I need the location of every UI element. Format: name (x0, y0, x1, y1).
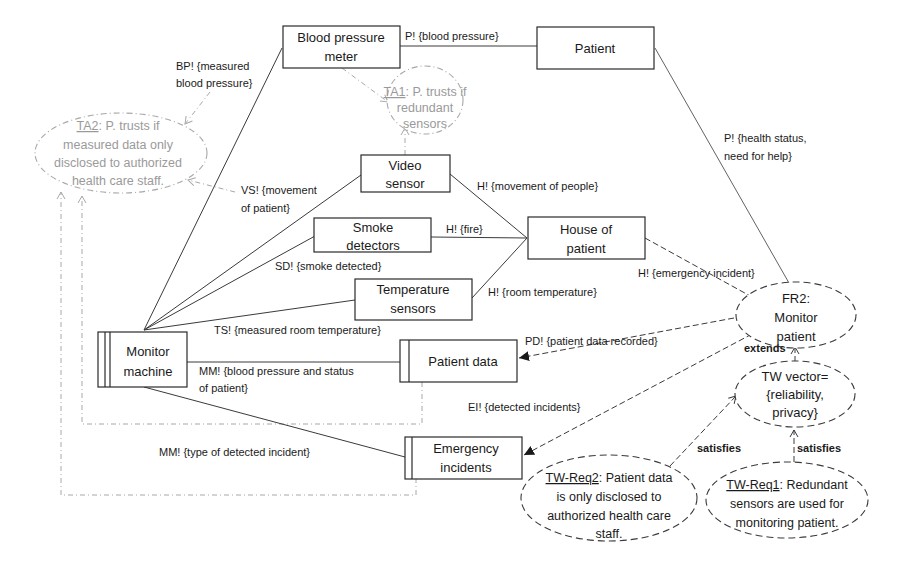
satisfies-label: satisfies (797, 442, 841, 454)
designed-domain-emergency-incidents[interactable]: Emergency incidents (405, 437, 522, 479)
extends-label: extends (744, 342, 786, 354)
req-label: Monitor (774, 310, 818, 325)
interface-label: H! {fire} (446, 223, 483, 235)
interface-label: MM! {type of detected incident} (159, 446, 310, 458)
interface-label: H! {movement of people} (477, 180, 598, 192)
req-label: TW-Req1: Redundant (726, 478, 848, 492)
req-label: monitoring patient. (736, 516, 839, 530)
interface-label: of patient} (199, 382, 248, 394)
req-label: is only disclosed to (557, 490, 662, 504)
interface-label: PD! {patient data recorded} (525, 335, 658, 347)
domain-label: Emergency (433, 441, 499, 456)
interface-label: of patient} (241, 202, 290, 214)
domain-label: Smoke (353, 220, 393, 235)
interface-label: blood pressure} (176, 77, 253, 89)
interface-label: need for help} (724, 150, 792, 162)
interface-lines (144, 46, 793, 457)
req-label: {reliability, (766, 387, 824, 402)
problem-diagram: Blood pressure meter Patient Video senso… (0, 0, 900, 570)
edge-patient-fr2 (655, 48, 793, 290)
domain-label: incidents (440, 460, 492, 475)
interface-label: VS! {movement (241, 184, 317, 196)
relation-satisfies-req2 (670, 396, 736, 466)
domain-patient[interactable]: Patient (537, 27, 654, 69)
domain-label: meter (324, 49, 358, 64)
domain-label: detectors (346, 238, 400, 253)
domain-label: Blood pressure (297, 30, 384, 45)
ref-bpm-ta2 (185, 92, 210, 124)
domain-label: Patient (575, 41, 616, 56)
interface-label: P! {blood pressure} (405, 30, 499, 42)
domain-label: Temperature (377, 282, 450, 297)
domain-label: patient (566, 241, 605, 256)
domain-house-of-patient[interactable]: House of patient (528, 217, 645, 259)
domain-label: sensors (390, 301, 436, 316)
domain-label: Monitor (126, 344, 170, 359)
interface-label: H! {room temperature} (488, 286, 597, 298)
req-label: TW-Req2: Patient data (546, 471, 673, 485)
requirement-tw-req2[interactable]: TW-Req2: Patient data is only disclosed … (521, 455, 697, 541)
machine-monitor[interactable]: Monitor machine (98, 332, 187, 387)
interface-label: EI! {detected incidents} (468, 401, 581, 413)
interface-label: H! {emergency incident} (638, 267, 755, 279)
domain-label: machine (123, 364, 172, 379)
ref-video-ta2 (188, 180, 235, 192)
edge-smoke-house (431, 237, 527, 238)
ta-label: sensors (403, 117, 447, 131)
interface-label: P! {health status, (724, 132, 807, 144)
req-label: TW vector= (762, 369, 829, 384)
ref-bpm-ta1 (342, 68, 388, 102)
req-label: sensors are used for (730, 497, 844, 511)
domain-label: House of (560, 222, 612, 237)
req-label: privacy} (772, 405, 818, 420)
ta-label: disclosed to authorized (54, 156, 182, 170)
trust-assumption-ta2[interactable]: TA2: P. trusts if measured data only dis… (35, 113, 207, 193)
domain-label: sensor (385, 176, 425, 191)
ref-fr2-emergency (524, 334, 752, 455)
trust-assumption-ta1[interactable]: TA1: P. trusts if redundant sensors (384, 66, 467, 134)
interface-label: TS! {measured room temperature} (214, 324, 381, 336)
ta-label: TA1: P. trusts if (384, 85, 467, 99)
domain-blood-pressure-meter[interactable]: Blood pressure meter (283, 26, 400, 68)
tw-vector[interactable]: TW vector= {reliability, privacy} (735, 361, 855, 427)
domain-video-sensor[interactable]: Video sensor (361, 155, 450, 192)
domain-label: Patient data (428, 354, 498, 369)
ta-label: redundant (397, 101, 454, 115)
req-label: FR2: (782, 291, 810, 306)
requirement-tw-req1[interactable]: TW-Req1: Redundant sensors are used for … (706, 462, 868, 538)
designed-domain-patient-data[interactable]: Patient data (400, 340, 517, 382)
interface-labels: P! {blood pressure} BP! {measured blood … (159, 30, 807, 458)
req-label: staff. (596, 527, 623, 541)
ta-label: measured data only (63, 138, 174, 152)
interface-label: BP! {measured (176, 60, 249, 72)
edge-smoke-monitor (144, 236, 315, 330)
requirement-fr2[interactable]: FR2: Monitor patient (736, 282, 856, 348)
domain-temperature-sensors[interactable]: Temperature sensors (355, 279, 472, 320)
domain-smoke-detectors[interactable]: Smoke detectors (314, 218, 431, 253)
satisfies-label: satisfies (697, 442, 741, 454)
domain-label: Video (388, 158, 421, 173)
ta-label: TA2: P. trusts if (77, 119, 160, 133)
interface-label: SD! {smoke detected} (275, 260, 382, 272)
req-label: authorized health care (547, 509, 671, 523)
ta-label: health care staff. (72, 174, 164, 188)
interface-label: MM! {blood pressure and status (199, 365, 354, 377)
